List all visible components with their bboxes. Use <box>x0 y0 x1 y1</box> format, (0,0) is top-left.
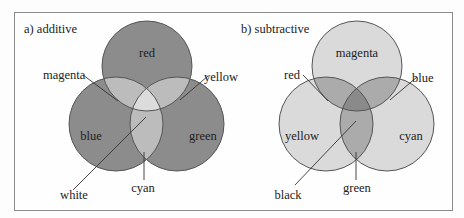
label-yellow: yellow <box>204 70 238 84</box>
venn-diagrams: a) additive red magenta yellow blue gree… <box>0 0 464 218</box>
label-blue-overlap: blue <box>412 71 434 85</box>
subtractive-title: b) subtractive <box>241 22 310 36</box>
label-cyan: cyan <box>131 181 155 195</box>
label-white: white <box>60 188 88 202</box>
label-cyan-circle: cyan <box>399 129 423 143</box>
label-red: red <box>139 46 156 60</box>
label-red-overlap: red <box>284 68 301 82</box>
additive-title: a) additive <box>24 22 78 36</box>
label-blue: blue <box>80 129 102 143</box>
label-yellow-circle: yellow <box>285 129 319 143</box>
label-magenta-circle: magenta <box>336 46 379 60</box>
label-green-overlap: green <box>343 181 372 195</box>
label-green: green <box>189 129 218 143</box>
label-black: black <box>274 188 302 202</box>
label-magenta: magenta <box>43 68 86 82</box>
